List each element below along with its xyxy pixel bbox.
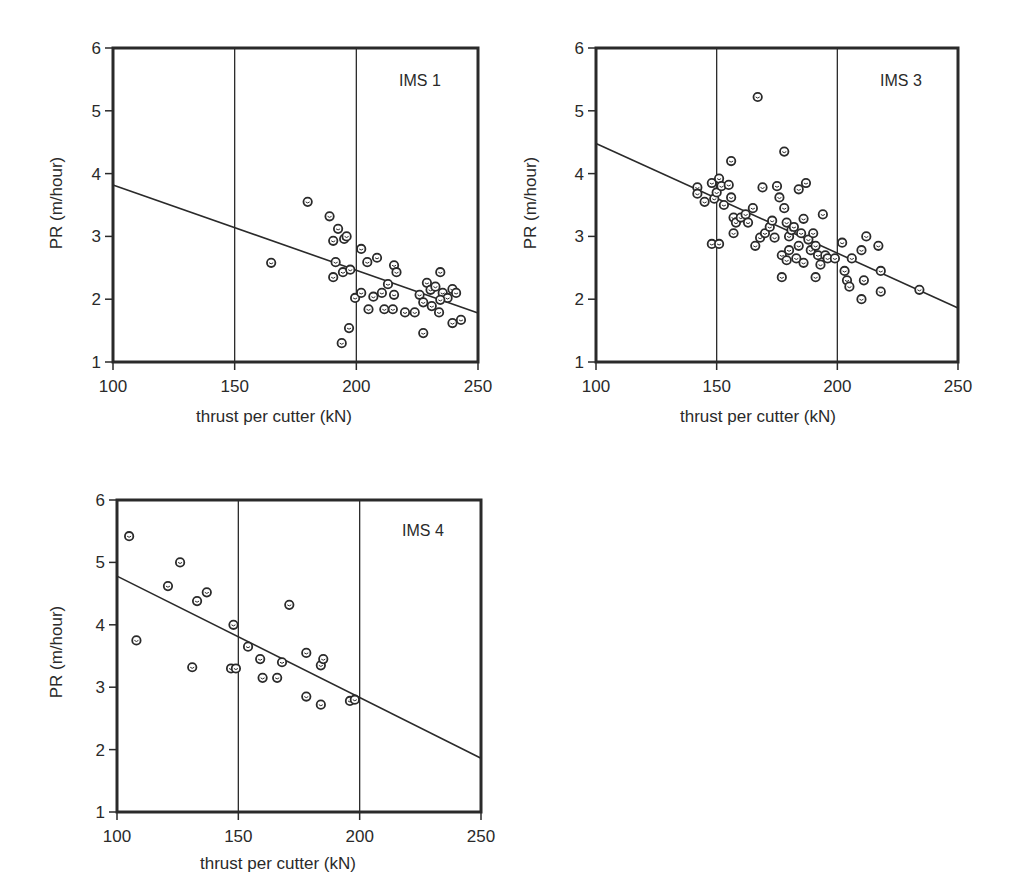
- x-tick-label: 200: [823, 377, 851, 396]
- data-point: [164, 582, 172, 590]
- data-point: [419, 298, 427, 306]
- data-point: [838, 238, 846, 246]
- y-tick-label: 3: [92, 227, 101, 246]
- x-axis-title-ims-3: thrust per cutter (kN): [680, 407, 836, 427]
- data-point: [795, 242, 803, 250]
- data-point: [799, 259, 807, 267]
- data-point: [797, 229, 805, 237]
- regression-line: [596, 143, 958, 308]
- data-point: [877, 287, 885, 295]
- data-point: [809, 229, 817, 237]
- data-point: [693, 189, 701, 197]
- data-point: [751, 242, 759, 250]
- data-point: [357, 245, 365, 253]
- data-point: [331, 258, 339, 266]
- data-point: [384, 280, 392, 288]
- data-point: [862, 232, 870, 240]
- data-point: [373, 254, 381, 262]
- plot-frame: [117, 500, 481, 812]
- data-point: [811, 242, 819, 250]
- x-tick-label: 250: [467, 827, 495, 846]
- data-point: [819, 210, 827, 218]
- data-point: [390, 291, 398, 299]
- data-point: [380, 305, 388, 313]
- data-point: [452, 289, 460, 297]
- data-point: [325, 212, 333, 220]
- y-tick-label: 2: [96, 741, 105, 760]
- data-point: [874, 242, 882, 250]
- data-point: [256, 655, 264, 663]
- y-tick-label: 1: [92, 353, 101, 372]
- y-tick-label: 1: [575, 353, 584, 372]
- data-point: [267, 259, 275, 267]
- x-axis-title-ims-4: thrust per cutter (kN): [200, 854, 356, 874]
- data-point: [775, 193, 783, 201]
- x-tick-label: 150: [702, 377, 730, 396]
- data-point: [799, 215, 807, 223]
- panel-label-ims-3: IMS 3: [880, 72, 922, 90]
- data-point: [857, 246, 865, 254]
- data-point: [785, 246, 793, 254]
- regression-line: [117, 576, 481, 758]
- data-point: [780, 147, 788, 155]
- data-point: [915, 286, 923, 294]
- data-point: [436, 268, 444, 276]
- data-point: [811, 273, 819, 281]
- x-tick-label: 200: [345, 827, 373, 846]
- data-point: [334, 225, 342, 233]
- chart-ims-4-svg: 123456100150200250: [0, 452, 506, 895]
- y-axis-title-ims-3: PR (m/hour): [521, 138, 541, 268]
- x-tick-label: 100: [103, 827, 131, 846]
- data-point: [729, 229, 737, 237]
- data-point: [727, 157, 735, 165]
- data-point: [720, 201, 728, 209]
- data-point: [188, 663, 196, 671]
- data-point: [273, 674, 281, 682]
- chart-ims-1: 123456100150200250 IMS 1 thrust per cutt…: [0, 0, 506, 445]
- data-point: [338, 339, 346, 347]
- data-point: [436, 296, 444, 304]
- data-point: [780, 204, 788, 212]
- data-point: [802, 179, 810, 187]
- data-point: [346, 265, 354, 273]
- data-point: [758, 183, 766, 191]
- plot-frame: [596, 48, 958, 362]
- data-point: [378, 289, 386, 297]
- data-point: [193, 597, 201, 605]
- data-point: [319, 655, 327, 663]
- data-point: [749, 204, 757, 212]
- data-point: [816, 260, 824, 268]
- data-point: [392, 268, 400, 276]
- data-point: [457, 316, 465, 324]
- data-point: [419, 329, 427, 337]
- data-point: [285, 601, 293, 609]
- data-point: [877, 267, 885, 275]
- y-tick-label: 3: [575, 227, 584, 246]
- y-tick-label: 2: [575, 290, 584, 309]
- data-point: [840, 267, 848, 275]
- y-tick-label: 4: [96, 616, 105, 635]
- y-tick-label: 6: [575, 39, 584, 58]
- data-point: [244, 642, 252, 650]
- data-point: [725, 181, 733, 189]
- y-tick-label: 6: [92, 39, 101, 58]
- data-point: [778, 273, 786, 281]
- data-point: [845, 282, 853, 290]
- data-point: [431, 282, 439, 290]
- data-point: [363, 258, 371, 266]
- y-tick-label: 1: [96, 803, 105, 822]
- plot-frame: [113, 48, 478, 362]
- data-point: [232, 664, 240, 672]
- data-point: [768, 217, 776, 225]
- data-point: [715, 240, 723, 248]
- chart-ims-3-svg: 123456100150200250: [480, 0, 1013, 445]
- x-axis-title-ims-1: thrust per cutter (kN): [196, 407, 352, 427]
- data-point: [831, 254, 839, 262]
- data-point: [364, 305, 372, 313]
- panel-label-ims-4: IMS 4: [402, 522, 444, 540]
- data-point: [773, 182, 781, 190]
- data-point: [411, 308, 419, 316]
- data-point: [303, 198, 311, 206]
- data-point: [782, 256, 790, 264]
- panel-label-ims-1: IMS 1: [399, 72, 441, 90]
